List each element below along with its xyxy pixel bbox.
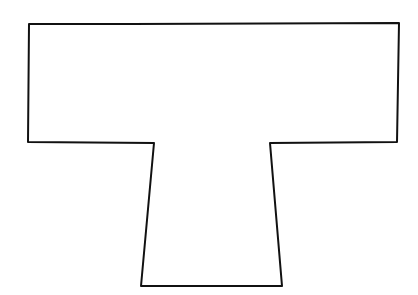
t-shape-outline xyxy=(28,23,399,286)
t-shape-diagram xyxy=(0,0,418,295)
